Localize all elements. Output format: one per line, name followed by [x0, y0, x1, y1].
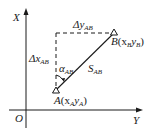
azimuth-prefix: α	[59, 62, 65, 74]
delta-y-label: ΔyAB	[73, 19, 93, 32]
distance-label: SAB	[88, 63, 102, 76]
distance-sub: AB	[94, 68, 103, 76]
origin-label: O	[15, 113, 23, 124]
point-a-name: A	[54, 94, 61, 106]
distance-prefix: S	[88, 62, 94, 74]
origin-label-text: O	[15, 112, 23, 124]
point-b-name: B	[111, 35, 118, 47]
x-axis-label: X	[13, 12, 20, 23]
azimuth-sub: AB	[65, 68, 74, 76]
delta-y-prefix: Δy	[73, 18, 84, 30]
y-axis-arrow-icon	[136, 108, 143, 113]
delta-x-prefix: Δx	[29, 52, 40, 64]
point-b-open: (x	[118, 35, 127, 47]
delta-x-label: ΔxAB	[29, 53, 49, 66]
azimuth-label: αAB	[59, 63, 73, 76]
y-axis-label-text: Y	[133, 114, 139, 126]
point-a-close: )	[83, 94, 87, 106]
point-a-sub2: A	[79, 100, 83, 108]
point-b-label: B(xByB)	[111, 36, 144, 49]
point-b-sub1: B	[127, 41, 131, 49]
point-a-sub1: A	[70, 100, 74, 108]
x-axis-arrow-icon	[24, 8, 29, 15]
point-a-label: A(xAyA)	[54, 95, 87, 108]
delta-y-sub: AB	[84, 24, 93, 32]
point-b-sub2: B	[136, 41, 140, 49]
x-axis-label-text: X	[13, 11, 20, 23]
point-b-close: )	[140, 35, 144, 47]
delta-x-sub: AB	[40, 58, 49, 66]
segment-ab	[57, 33, 114, 89]
point-a-open: (x	[61, 94, 70, 106]
y-axis-label: Y	[133, 115, 139, 126]
